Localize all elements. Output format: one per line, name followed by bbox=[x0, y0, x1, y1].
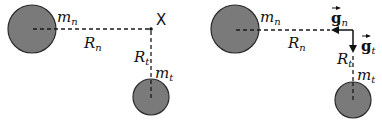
mass-n-circle bbox=[211, 5, 259, 53]
svg-text:gn: gn bbox=[331, 9, 348, 28]
gravity-diagram: mn Rn X Rt mt mn Rn gn gt Rt mt bbox=[0, 0, 382, 120]
point-x-dot bbox=[149, 27, 153, 31]
distance-n-label: Rn bbox=[287, 34, 306, 53]
right-panel: mn Rn gn gt Rt mt bbox=[211, 5, 377, 118]
mass-t-label: mt bbox=[155, 64, 174, 83]
mass-n-label: mn bbox=[57, 8, 78, 27]
field-n-label: gn bbox=[331, 8, 348, 28]
field-t-label: gt bbox=[361, 36, 377, 56]
left-panel: mn Rn X Rt mt bbox=[8, 5, 174, 115]
distance-t-label: Rt bbox=[336, 50, 353, 69]
point-x-label: X bbox=[156, 11, 166, 29]
distance-n-label: Rn bbox=[83, 34, 102, 53]
svg-text:gt: gt bbox=[361, 37, 377, 56]
mass-n-label: mn bbox=[260, 8, 281, 27]
mass-t-label: mt bbox=[357, 66, 376, 85]
distance-t-label: Rt bbox=[133, 48, 150, 67]
